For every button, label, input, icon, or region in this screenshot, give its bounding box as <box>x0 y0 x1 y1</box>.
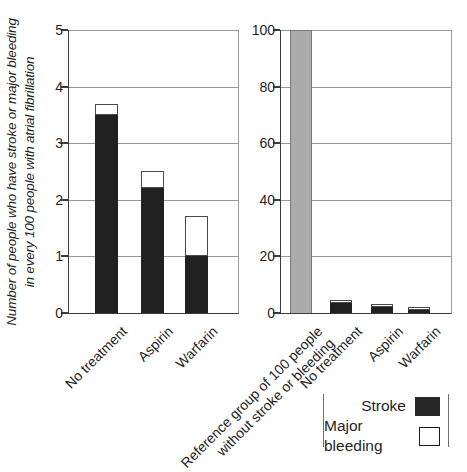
legend-label-major-bleeding: Major bleeding <box>324 416 410 456</box>
gridline <box>69 87 238 88</box>
right-chart-plot-area: 020406080100Reference group of 100 peopl… <box>280 30 452 314</box>
legend-item-stroke: Stroke <box>324 396 448 416</box>
bar-stroke-segment <box>185 256 208 313</box>
stroke-swatch-icon <box>415 397 440 416</box>
y-tick-label: 0 <box>23 305 63 321</box>
y-tick-label: 0 <box>235 305 275 321</box>
y-tick-label: 20 <box>235 248 275 264</box>
y-tick-label: 2 <box>23 192 63 208</box>
y-tick-label: 80 <box>235 79 275 95</box>
x-axis-label: Aspirin <box>135 323 177 365</box>
y-tick-label: 60 <box>235 135 275 151</box>
y-axis-title: Number of people who have stroke or majo… <box>3 12 41 332</box>
bar-major-bleeding-segment <box>185 216 208 256</box>
y-tick-label: 4 <box>23 79 63 95</box>
bar-stroke-segment <box>95 115 118 313</box>
bar-major-bleeding-segment <box>95 104 118 115</box>
left-chart-plot-area: 012345No treatmentAspirinWarfarin <box>68 30 239 314</box>
legend-item-major-bleeding: Major bleeding <box>324 416 448 456</box>
y-tick-label: 40 <box>235 192 275 208</box>
legend-label-stroke: Stroke <box>361 396 406 416</box>
y-tick-label: 5 <box>23 22 63 38</box>
x-axis-label: No treatment <box>62 323 131 392</box>
y-tick-label: 100 <box>235 22 275 38</box>
bar-stroke-segment <box>408 310 430 313</box>
major-bleeding-swatch-icon <box>419 427 440 446</box>
legend: Stroke Major bleeding <box>323 394 449 447</box>
bar-reference <box>290 30 312 313</box>
bar-major-bleeding-segment <box>141 171 164 188</box>
x-axis-label: Warfarin <box>172 323 221 372</box>
gridline <box>69 30 238 31</box>
bar-stroke-segment <box>371 307 393 313</box>
y-tick-label: 3 <box>23 135 63 151</box>
bar-stroke-segment <box>141 188 164 313</box>
y-tick-label: 1 <box>23 248 63 264</box>
bar-stroke-segment <box>330 303 352 313</box>
